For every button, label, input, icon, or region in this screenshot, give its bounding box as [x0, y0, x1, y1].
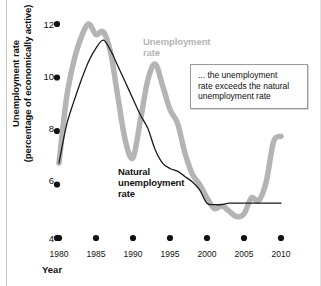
chart-figure: Unemployment rate (percentage of economi… — [0, 0, 321, 286]
annotation-callout-box: ... the unemployment rate exceeds the na… — [190, 64, 308, 109]
series-label-natural-line1: Natural — [118, 166, 184, 177]
annotation-line1: ... the unemployment — [198, 70, 301, 81]
annotation-line3: unemployment rate — [198, 91, 301, 102]
series-label-unemployment-line1: Unemployment — [143, 36, 210, 47]
annotation-line2: rate exceeds the natural — [198, 81, 301, 92]
series-label-natural-rate: Natural unemployment rate — [118, 166, 184, 199]
series-label-natural-line2: unemployment — [118, 177, 184, 188]
series-label-unemployment-line2: rate — [143, 47, 210, 58]
series-label-natural-line3: rate — [118, 188, 184, 199]
series-label-unemployment-rate: Unemployment rate — [143, 36, 210, 58]
